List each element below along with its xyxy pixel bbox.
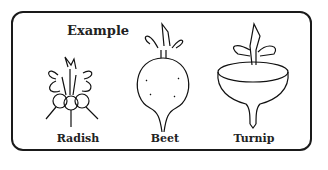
label-radish: Radish xyxy=(38,132,118,145)
radish-illustration xyxy=(38,55,108,130)
label-beet: Beet xyxy=(125,132,205,145)
turnip-illustration xyxy=(208,20,298,135)
beet-illustration xyxy=(128,20,198,135)
diagram-title: Example xyxy=(67,23,129,38)
label-turnip: Turnip xyxy=(214,132,294,145)
